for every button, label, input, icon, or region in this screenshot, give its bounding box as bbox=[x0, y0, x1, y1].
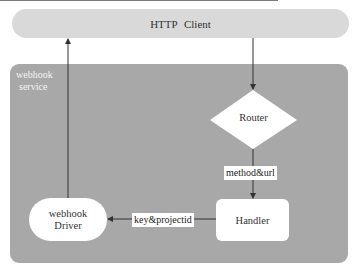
edge-label-key-projectid: key&projectid bbox=[132, 213, 194, 227]
webhook-driver-node: webhook Driver bbox=[29, 198, 107, 241]
driver-label-line1: webhook bbox=[49, 208, 88, 220]
router-label: Router bbox=[210, 112, 297, 123]
handler-node: Handler bbox=[216, 199, 289, 241]
handler-label: Handler bbox=[236, 215, 270, 226]
driver-label-line2: Driver bbox=[54, 220, 81, 232]
edge-label-method-url: method&url bbox=[224, 166, 277, 180]
